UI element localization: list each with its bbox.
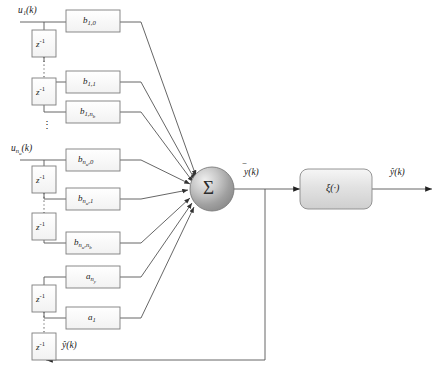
intermediate-output-label: ̅ y(k) bbox=[244, 168, 259, 178]
coefficient-label-bnu1: bnu,1 bbox=[78, 194, 93, 206]
delay-label: z-1 bbox=[36, 221, 45, 232]
final-output-label: ŷ(k) bbox=[390, 168, 405, 178]
coefficient-label-bnu0: bnu,0 bbox=[78, 155, 93, 167]
coefficient-label-b11: b1,1 bbox=[83, 77, 96, 88]
summation-symbol: Σ bbox=[203, 178, 214, 197]
coefficient-label-any: any bbox=[86, 272, 96, 284]
coefficient-label-a1: a1 bbox=[88, 313, 96, 324]
input-label-unu: unu(k) bbox=[11, 144, 32, 156]
group-separator-dots: ⋮ bbox=[42, 120, 52, 130]
coefficient-label-b1nb: b1,nb bbox=[80, 107, 95, 119]
delay-label: z-1 bbox=[36, 86, 45, 97]
input-label-u1: u₁(k) bbox=[18, 6, 37, 16]
delay-label: z-1 bbox=[36, 341, 45, 352]
narx-diagram-canvas: u₁(k) unu(k) z-1 z-1 z-1 z-1 z-1 z-1 b1,… bbox=[0, 0, 445, 381]
delay-label: z-1 bbox=[36, 293, 45, 304]
delay-label: z-1 bbox=[36, 38, 45, 49]
delay-label: z-1 bbox=[36, 174, 45, 185]
coefficient-label-bnunb: bnu,nb bbox=[74, 238, 92, 250]
activation-symbol: ξ(·) bbox=[326, 183, 339, 193]
diagram-wires-layer bbox=[0, 0, 445, 381]
feedback-output-label: ŷ(k) bbox=[62, 341, 77, 351]
coefficient-label-b10: b1,0 bbox=[83, 16, 96, 27]
